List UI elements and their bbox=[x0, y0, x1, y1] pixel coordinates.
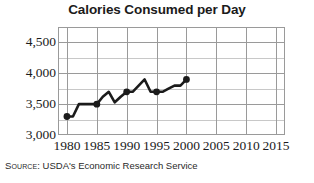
y-tick-label: 4,000 bbox=[4, 65, 56, 81]
x-tick-label: 2015 bbox=[263, 138, 290, 154]
x-tick-label: 1995 bbox=[143, 138, 170, 154]
data-point-markers bbox=[64, 76, 190, 120]
plot-border bbox=[59, 28, 285, 135]
y-tick-label: 3,500 bbox=[4, 96, 56, 112]
source-note: Source: USDA's Economic Research Service bbox=[5, 160, 198, 171]
chart-plot-svg bbox=[58, 27, 285, 135]
source-text: USDA's Economic Research Service bbox=[43, 160, 198, 171]
source-label: Source: bbox=[5, 160, 40, 171]
x-tick-label: 2000 bbox=[173, 138, 200, 154]
y-tick-label: 4,500 bbox=[4, 34, 56, 50]
horizontal-gridlines bbox=[58, 43, 285, 105]
data-line-calories bbox=[67, 79, 186, 116]
chart-figure: Calories Consumed per Day 3,0003,5004,00… bbox=[0, 0, 314, 183]
x-tick-label: 1985 bbox=[83, 138, 110, 154]
x-tick-label: 2005 bbox=[203, 138, 230, 154]
x-tick-label: 1990 bbox=[113, 138, 140, 154]
x-tick-label: 1980 bbox=[53, 138, 80, 154]
vertical-gridlines bbox=[68, 27, 277, 135]
plot-area bbox=[58, 27, 285, 135]
x-axis: 19801985199019952000200520102015 bbox=[0, 138, 314, 156]
minor-gridlines bbox=[58, 59, 285, 121]
x-tick-label: 2010 bbox=[233, 138, 260, 154]
